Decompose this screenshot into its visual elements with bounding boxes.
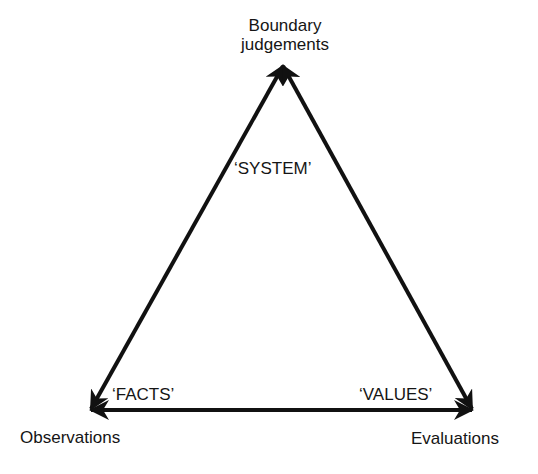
edge-label-facts: ‘FACTS’ [112,385,174,404]
vertex-label-observations: Observations [20,428,120,447]
edge-label-system: ‘SYSTEM’ [234,159,311,178]
vertex-label-boundary-judgements: Boundary judgements [233,16,337,54]
edge-label-values: ‘VALUES’ [359,385,432,404]
vertex-label-line-2: judgements [233,35,337,54]
edge-top-left [91,66,283,409]
vertex-label-evaluations: Evaluations [411,429,499,448]
edge-top-right [283,66,472,409]
triangle-diagram [0,0,538,474]
vertex-label-line-1: Boundary [233,16,337,35]
